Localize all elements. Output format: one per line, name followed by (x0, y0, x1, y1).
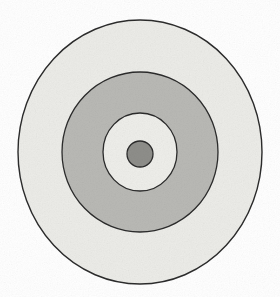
concentric-circles-figure (0, 0, 280, 297)
center-dot (127, 141, 153, 167)
concentric-circles-svg (0, 0, 280, 297)
